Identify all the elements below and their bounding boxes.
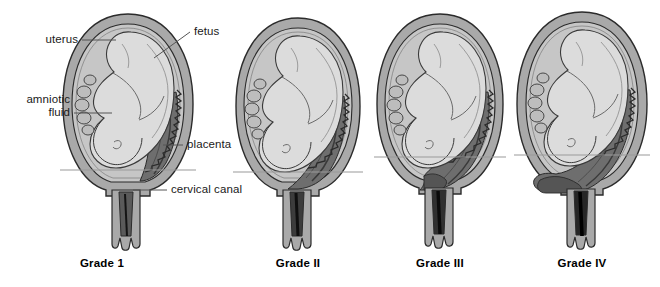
label-amniotic-fluid: fluid — [6, 106, 70, 119]
cervical-canal-lumen — [438, 191, 440, 234]
caption-grade-1: Grade 1 — [62, 257, 142, 269]
caption-grade-2: Grade II — [258, 257, 338, 269]
label-uterus: uterus — [22, 33, 78, 46]
cervical-canal-lumen — [296, 193, 298, 236]
label-amniotic: amniotic — [6, 93, 70, 106]
label-fetus: fetus — [194, 25, 219, 38]
label-placenta: placenta — [187, 138, 231, 151]
label-cervical-canal: cervical canal — [171, 183, 242, 196]
caption-grade-3: Grade III — [400, 257, 480, 269]
cervical-canal-lumen — [580, 192, 582, 236]
placenta-previa-figure — [0, 0, 660, 287]
caption-grade-4: Grade IV — [542, 257, 622, 269]
